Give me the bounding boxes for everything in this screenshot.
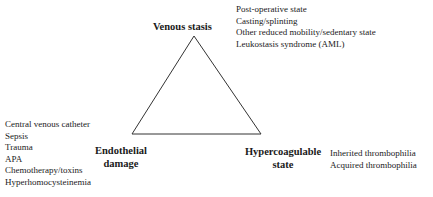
vertex-label-hypercoagulable-state: Hypercoagulable state bbox=[240, 145, 326, 171]
factor-item: Leukostasis syndrome (AML) bbox=[236, 39, 376, 51]
factor-item: Central venous catheter bbox=[5, 119, 91, 131]
venous-stasis-factors: Post-operative state Casting/splinting O… bbox=[236, 4, 376, 50]
label-line: Hypercoagulable bbox=[240, 145, 326, 158]
label-line: damage bbox=[86, 157, 156, 170]
label-line: state bbox=[240, 158, 326, 171]
factor-item: Acquired thrombophilia bbox=[330, 160, 417, 172]
factor-item: Casting/splinting bbox=[236, 16, 376, 28]
factor-item: Sepsis bbox=[5, 131, 91, 143]
factor-item: Hyperhomocysteinemia bbox=[5, 177, 91, 189]
factor-item: Trauma bbox=[5, 142, 91, 154]
vertex-label-venous-stasis: Venous stasis bbox=[153, 20, 212, 33]
label-line: Endothelial bbox=[86, 144, 156, 157]
factor-item: Other reduced mobility/sedentary state bbox=[236, 27, 376, 39]
hypercoagulable-factors: Inherited thrombophilia Acquired thrombo… bbox=[330, 148, 417, 171]
vertex-label-endothelial-damage: Endothelial damage bbox=[86, 144, 156, 170]
factor-item: Chemotherapy/toxins bbox=[5, 165, 91, 177]
endothelial-damage-factors: Central venous catheter Sepsis Trauma AP… bbox=[5, 119, 91, 188]
factor-item: Inherited thrombophilia bbox=[330, 148, 417, 160]
factor-item: Post-operative state bbox=[236, 4, 376, 16]
factor-item: APA bbox=[5, 154, 91, 166]
